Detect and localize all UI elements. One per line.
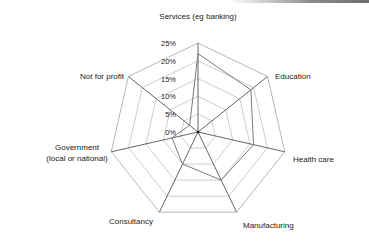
tick-label: 15% — [161, 75, 176, 84]
category-label: Services (eg banking) — [159, 12, 237, 21]
tick-label: 25% — [161, 39, 176, 48]
tick-label: 5% — [165, 110, 176, 119]
category-label: Manufacturing — [243, 221, 294, 230]
tick-label: 20% — [161, 57, 176, 66]
radar-chart: 0%5%10%15%20%25% Services (eg banking)Ed… — [0, 0, 369, 251]
tick-label: 0% — [165, 128, 176, 137]
center-dot — [197, 131, 200, 134]
axis-line-3 — [198, 132, 237, 212]
category-label: Consultancy — [109, 217, 153, 226]
category-label: Health care — [293, 155, 334, 164]
category-label: Government(local or national) — [46, 143, 108, 163]
tick-labels: 0%5%10%15%20%25% — [161, 39, 176, 137]
category-label: Education — [275, 72, 311, 81]
category-label: Not for profit — [80, 72, 125, 81]
axis-layer — [111, 43, 285, 212]
tick-label: 10% — [161, 92, 176, 101]
axis-line-4 — [159, 132, 198, 212]
